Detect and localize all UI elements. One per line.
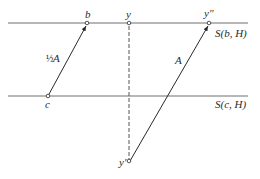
label-y-prime: y′ (118, 156, 127, 168)
label-b: b (85, 8, 91, 20)
diagram-canvas: b y y″ c y′ ½ A A S(b, H) S(c, H) (0, 0, 260, 179)
point-b (85, 21, 89, 25)
label-s-b-h: S(b, H) (215, 27, 247, 40)
point-y-double-prime (207, 21, 211, 25)
label-y: y (125, 8, 131, 20)
point-y (127, 21, 131, 25)
label-s-c-h: S(c, H) (215, 98, 246, 111)
label-c: c (45, 98, 50, 110)
label-y-double-prime: y″ (203, 7, 214, 19)
label-half-a-var: A (52, 52, 60, 64)
vector-a (130, 26, 208, 161)
label-a: A (174, 54, 182, 66)
point-y-prime (127, 159, 131, 163)
